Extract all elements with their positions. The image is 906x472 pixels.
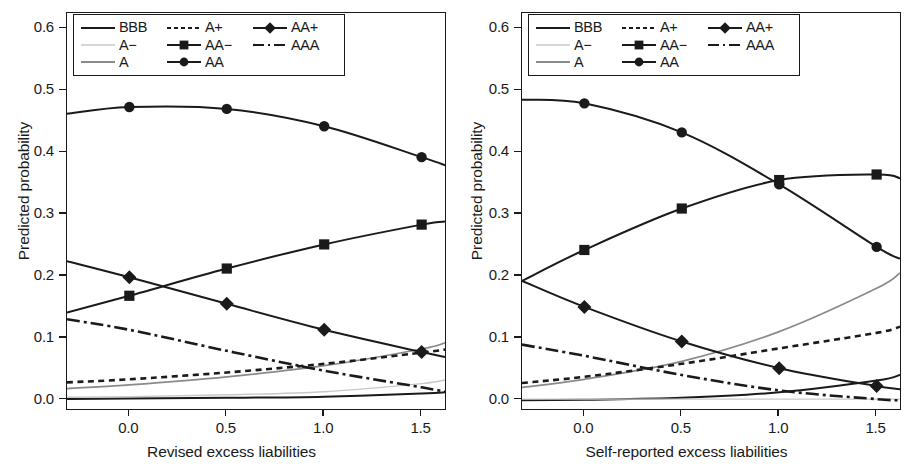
- panel-revised-excess-liabilities: Predicted probability Revised excess lia…: [0, 0, 453, 472]
- y-tick-label: 0.0: [463, 390, 509, 407]
- legend-swatch-A-icon: [166, 21, 202, 35]
- x-tick-label: 0.0: [103, 419, 153, 436]
- data-point-AA-0: [579, 98, 589, 108]
- y-tick-mark: [514, 274, 521, 275]
- y-tick-label: 0.2: [8, 266, 54, 283]
- legend-label: AA−: [660, 38, 687, 53]
- legend-swatch-AA-icon: [252, 21, 288, 35]
- legend-swatch-BBB-icon: [535, 21, 571, 35]
- legend-entry-AA-left: AA+: [252, 19, 338, 36]
- data-point-AA-1.5: [872, 169, 882, 179]
- series-line-AA: [522, 281, 900, 389]
- legend-grid-left: BBBA+AA+A−AA−AAAAAA: [80, 19, 338, 71]
- legend-label: BBB: [119, 20, 147, 35]
- legend-entry-AAA-left: AAA: [252, 36, 338, 53]
- legend-entry-empty-right: [707, 54, 793, 71]
- data-point-AA-1: [317, 323, 331, 337]
- x-axis-label-left: Revised excess liabilities: [10, 443, 453, 461]
- y-tick-label: 0.3: [8, 204, 54, 221]
- y-tick-mark: [514, 89, 521, 90]
- y-tick-mark: [59, 336, 66, 337]
- data-point-AA-1: [319, 121, 329, 131]
- legend-left: BBBA+AA+A−AA−AAAAAA: [73, 14, 345, 76]
- legend-label: AAA: [291, 38, 319, 53]
- y-tick-label: 0.1: [8, 328, 54, 345]
- data-point-AA-1.5: [871, 242, 881, 252]
- legend-label: BBB: [574, 20, 602, 35]
- legend-label: A: [119, 55, 128, 70]
- legend-entry-empty-left: [252, 54, 338, 71]
- series-line-AA: [522, 100, 900, 259]
- legend-entry-A-right: A−: [535, 36, 621, 53]
- legend-label: AA−: [205, 38, 232, 53]
- legend-right: BBBA+AA+A−AA−AAAAAA: [528, 14, 800, 76]
- legend-label: A−: [574, 38, 592, 53]
- legend-entry-AA-right: AA: [621, 54, 707, 71]
- x-tick-mark: [420, 409, 421, 416]
- data-point-AA-0.5: [677, 203, 687, 213]
- data-point-AA-0: [577, 300, 591, 314]
- legend-swatch-A-icon: [535, 55, 571, 69]
- legend-entry-A-left: A+: [166, 19, 252, 36]
- legend-entry-BBB-right: BBB: [535, 19, 621, 36]
- legend-label: AAA: [746, 38, 774, 53]
- legend-entry-A-right: A: [535, 54, 621, 71]
- x-tick-mark: [777, 409, 778, 416]
- legend-swatch-AA-icon: [621, 38, 657, 52]
- legend-entry-A-right: A+: [621, 19, 707, 36]
- y-tick-label: 0.5: [463, 80, 509, 97]
- legend-label: A+: [660, 20, 678, 35]
- legend-label: AA+: [746, 20, 773, 35]
- legend-swatch-A-icon: [80, 55, 116, 69]
- legend-swatch-A-icon: [535, 38, 571, 52]
- panel-self-reported-excess-liabilities: Predicted probability Self-reported exce…: [453, 0, 906, 472]
- legend-label: AA: [660, 55, 679, 70]
- data-point-AA-0.5: [220, 297, 234, 311]
- y-tick-mark: [514, 151, 521, 152]
- x-tick-label: 1.0: [753, 419, 803, 436]
- y-tick-mark: [59, 212, 66, 213]
- data-point-AA-1: [319, 239, 329, 249]
- x-tick-label: 1.5: [851, 419, 901, 436]
- legend-swatch-AA-icon: [707, 21, 743, 35]
- x-tick-mark: [680, 409, 681, 416]
- x-tick-mark: [322, 409, 323, 416]
- data-point-AA-1: [774, 179, 784, 189]
- x-tick-label: 1.5: [396, 419, 446, 436]
- legend-entry-BBB-left: BBB: [80, 19, 166, 36]
- x-tick-mark: [128, 409, 129, 416]
- data-point-AA-0.5: [675, 335, 689, 349]
- x-tick-label: 0.0: [558, 419, 608, 436]
- legend-entry-A-left: A: [80, 54, 166, 71]
- y-tick-label: 0.5: [8, 80, 54, 97]
- x-tick-mark: [583, 409, 584, 416]
- series-line-A: [67, 343, 445, 389]
- x-tick-label: 0.5: [656, 419, 706, 436]
- legend-label: A+: [205, 20, 223, 35]
- y-tick-label: 0.2: [463, 266, 509, 283]
- legend-label: A: [574, 55, 583, 70]
- data-point-AA-0.5: [222, 104, 232, 114]
- data-point-AA-0.5: [222, 263, 232, 273]
- legend-swatch-A-icon: [80, 38, 116, 52]
- data-point-AA-0.5: [677, 127, 687, 137]
- data-point-AA-0: [124, 102, 134, 112]
- legend-label: A−: [119, 38, 137, 53]
- y-tick-label: 0.6: [8, 18, 54, 35]
- legend-swatch-AA-icon: [166, 38, 202, 52]
- y-tick-label: 0.3: [463, 204, 509, 221]
- y-tick-mark: [514, 212, 521, 213]
- y-tick-mark: [59, 27, 66, 28]
- legend-entry-AAA-right: AAA: [707, 36, 793, 53]
- y-tick-mark: [59, 151, 66, 152]
- series-line-AA: [67, 261, 445, 357]
- y-tick-label: 0.0: [8, 390, 54, 407]
- data-point-AA-0: [579, 245, 589, 255]
- legend-entry-AA-right: AA+: [707, 19, 793, 36]
- y-tick-label: 0.4: [8, 142, 54, 159]
- y-tick-mark: [59, 89, 66, 90]
- legend-entry-AA-left: AA: [166, 54, 252, 71]
- legend-swatch-BBB-icon: [80, 21, 116, 35]
- legend-grid-right: BBBA+AA+A−AA−AAAAAA: [535, 19, 793, 71]
- legend-swatch-AAA-icon: [252, 38, 288, 52]
